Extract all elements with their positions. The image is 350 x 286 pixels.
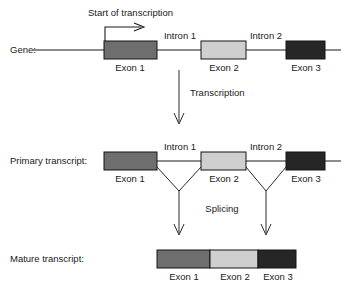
splicing-arrow-right — [261, 190, 271, 235]
gene-intron-2-label: Intron 2 — [250, 30, 282, 41]
primary-intron-1-label: Intron 1 — [164, 141, 196, 152]
gene-exon-2-box — [201, 41, 246, 59]
mature-exon-2-box — [210, 250, 258, 268]
gene-exon-1-label: Exon 1 — [115, 62, 145, 73]
primary-exon-2-label: Exon 2 — [209, 173, 239, 184]
gene-row-label: Gene: — [10, 44, 36, 55]
gene-intron-1-label: Intron 1 — [164, 30, 196, 41]
mature-exon-3-label: Exon 3 — [263, 271, 293, 282]
start-of-transcription-arrow — [105, 23, 144, 42]
primary-exon-3-label: Exon 3 — [291, 173, 321, 184]
splice-guide-2-left-leg — [246, 167, 266, 191]
primary-exon-1-box — [104, 152, 157, 170]
splicing-arrow-left — [174, 190, 184, 235]
start-arrow-bend-icon — [105, 27, 141, 42]
gene-exon-3-label: Exon 3 — [291, 62, 321, 73]
mature-exon-2-label: Exon 2 — [220, 271, 250, 282]
mature-exon-1-label: Exon 1 — [169, 271, 199, 282]
primary-exon-3-box — [286, 152, 325, 170]
gene-row: Gene: Start of transcription Exon 1 Exon… — [10, 7, 341, 73]
primary-transcript-row-label: Primary transcript: — [10, 155, 87, 166]
gene-splicing-diagram: Gene: Start of transcription Exon 1 Exon… — [0, 0, 350, 286]
transcription-arrow — [174, 70, 184, 124]
primary-intron-2-label: Intron 2 — [250, 141, 282, 152]
gene-exon-3-box — [286, 41, 325, 59]
gene-exon-2-label: Exon 2 — [209, 62, 239, 73]
diagram-canvas: Gene: Start of transcription Exon 1 Exon… — [0, 0, 350, 286]
mature-exon-1-box — [157, 250, 210, 268]
gene-exon-1-box — [104, 41, 157, 59]
mature-transcript-row-label: Mature transcript: — [10, 253, 84, 264]
primary-exon-2-box — [201, 152, 246, 170]
mature-transcript-row: Mature transcript: Exon 1 Exon 2 Exon 3 — [10, 250, 296, 282]
primary-exon-1-label: Exon 1 — [115, 173, 145, 184]
splicing-label: Splicing — [205, 203, 238, 214]
splice-guide-1-right-leg — [179, 167, 201, 191]
mature-exon-3-box — [258, 250, 296, 268]
start-of-transcription-label: Start of transcription — [88, 7, 173, 18]
splice-guide-intron-2 — [246, 167, 286, 191]
splice-guide-2-right-leg — [266, 167, 286, 191]
splice-guide-1-left-leg — [157, 167, 179, 191]
transcription-label: Transcription — [190, 87, 245, 98]
splice-guide-intron-1 — [157, 167, 201, 191]
primary-transcript-row: Primary transcript: Exon 1 Exon 2 Exon 3… — [10, 141, 341, 184]
